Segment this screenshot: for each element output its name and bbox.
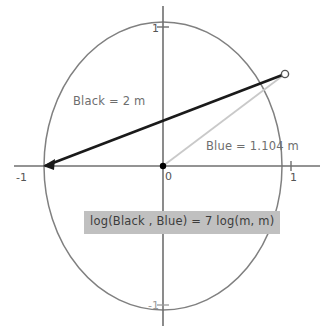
x-axis-tick-label-neg-one: -1 xyxy=(16,172,27,183)
y-axis-tick-label-neg-one: -1 xyxy=(148,300,159,311)
origin-point xyxy=(160,163,166,169)
x-axis-tick-label-zero: 0 xyxy=(165,171,172,182)
blue-vector-label: Blue = 1.104 m xyxy=(206,141,299,153)
circle-point-marker xyxy=(281,70,288,77)
x-axis-tick-label-pos-one: 1 xyxy=(290,172,297,183)
unit-circle-plot: Black = 2 m Blue = 1.104 m log(Black , B… xyxy=(0,0,334,331)
y-axis-tick-label-pos-one: 1 xyxy=(152,23,159,34)
plot-canvas xyxy=(0,0,334,331)
equation-annotation: log(Black , Blue) = 7 log(m, m) xyxy=(84,211,280,234)
black-vector-label: Black = 2 m xyxy=(73,96,145,108)
